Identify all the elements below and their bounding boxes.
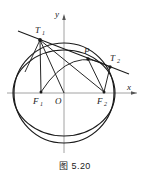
geometry-diagram: y x O F 1 F 2 T 1 P T 2 bbox=[0, 0, 150, 176]
y-axis-arrowhead bbox=[62, 14, 66, 20]
label-point-p: P bbox=[83, 46, 90, 56]
figure-canvas: y x O F 1 F 2 T 1 P T 2 bbox=[0, 0, 150, 176]
segment-t1-f1 bbox=[40, 40, 41, 92]
labels-group: y x O F 1 F 2 T 1 P T 2 bbox=[32, 9, 131, 107]
label-focus1: F bbox=[32, 96, 39, 106]
point-f1 bbox=[40, 91, 43, 94]
label-tangent2-subscript: 2 bbox=[117, 58, 120, 64]
label-y-axis: y bbox=[54, 9, 59, 19]
focal-radii-group bbox=[25, 40, 110, 93]
label-origin: O bbox=[55, 96, 62, 106]
label-tangent1: T bbox=[35, 25, 41, 35]
label-focus2-subscript: 2 bbox=[104, 101, 107, 107]
segment-t1-f2 bbox=[40, 40, 104, 92]
label-x-axis: x bbox=[126, 82, 131, 92]
point-t1 bbox=[38, 38, 42, 42]
point-t2 bbox=[108, 65, 111, 68]
label-tangent1-subscript: 1 bbox=[42, 30, 45, 36]
figure-caption: 图 5.20 bbox=[0, 159, 150, 172]
x-axis-arrowhead bbox=[131, 91, 137, 95]
point-p bbox=[86, 57, 89, 60]
point-f2 bbox=[103, 91, 106, 94]
segment-t2-f2 bbox=[104, 67, 110, 92]
label-tangent2: T bbox=[110, 53, 116, 63]
label-focus2: F bbox=[96, 96, 103, 106]
label-focus1-subscript: 1 bbox=[40, 101, 43, 107]
